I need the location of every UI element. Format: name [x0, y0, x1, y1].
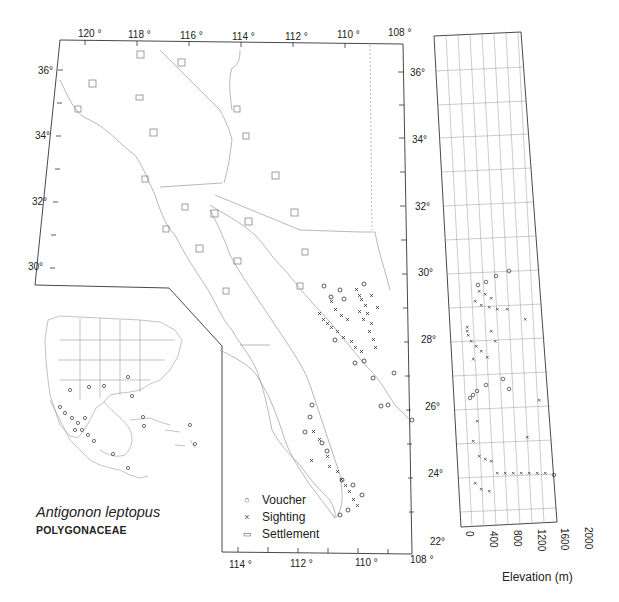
- map-lon-labels-bottom: 114 ° 112 ° 110 ° 108 °: [229, 554, 433, 570]
- voucher-circle-icon: ○: [240, 495, 254, 505]
- inset-gulf-coast: [100, 402, 132, 456]
- lat-label: 22°: [430, 536, 445, 547]
- lat-label: 36°: [38, 65, 53, 76]
- lat-label: 26°: [425, 401, 440, 412]
- map-lat-labels-left: 36° 34° 32° 30°: [28, 65, 53, 272]
- lat-label: 32°: [32, 196, 47, 207]
- lon-label: 110 °: [355, 557, 378, 568]
- inset-usa-outline: [45, 316, 182, 438]
- legend-label: Settlement: [262, 527, 319, 541]
- lon-label: 120 °: [78, 28, 101, 39]
- elevation-tick: 400: [488, 531, 499, 548]
- inset-caribbean-islands: [130, 418, 195, 448]
- lat-label: 32°: [415, 201, 430, 212]
- legend: ○ Voucher × Sighting ▭ Settlement: [240, 491, 319, 542]
- species-name: Antigonon leptopus: [36, 504, 160, 520]
- inset-occurrence-markers: [58, 375, 196, 469]
- lon-label: 114 °: [229, 559, 252, 570]
- lon-label: 108 °: [410, 554, 433, 565]
- map-left-ticks: [50, 70, 63, 268]
- sighting-markers-map: [310, 288, 379, 507]
- lat-label: 36°: [410, 67, 425, 78]
- legend-label: Voucher: [262, 493, 306, 507]
- sighting-cross-icon: ×: [240, 512, 254, 522]
- lat-label: 30°: [418, 267, 433, 278]
- elevation-tick: 2000: [583, 527, 594, 550]
- elevation-tick: 0: [464, 531, 475, 537]
- lat-label: 24°: [428, 468, 443, 479]
- elevation-frame: [434, 32, 557, 527]
- lon-label: 108 °: [388, 27, 411, 38]
- legend-item-voucher: ○ Voucher: [240, 491, 319, 508]
- elevation-tick: 800: [512, 530, 523, 547]
- coastlines-borders: [60, 45, 410, 518]
- voucher-markers-map: [303, 282, 414, 517]
- settlement-square-icon: ▭: [240, 529, 254, 539]
- elevation-x-ticks: 0 400 800 1200 1600 2000: [464, 527, 594, 552]
- elevation-tick: 1200: [536, 529, 547, 552]
- inset-map: [45, 316, 195, 478]
- lon-label: 112 °: [285, 31, 308, 42]
- elevation-sighting-points: [466, 290, 547, 493]
- elevation-axis-label: Elevation (m): [502, 570, 573, 584]
- legend-item-sighting: × Sighting: [240, 508, 319, 525]
- legend-item-settlement: ▭ Settlement: [240, 525, 319, 542]
- lon-label: 118 °: [128, 29, 151, 40]
- lat-label: 30°: [28, 261, 43, 272]
- lat-label: 28°: [421, 334, 436, 345]
- lon-label: 112 °: [290, 558, 313, 569]
- lon-label: 116 °: [180, 30, 203, 41]
- legend-label: Sighting: [262, 510, 305, 524]
- lon-label: 114 °: [232, 31, 255, 42]
- family-name: POLYGONACEAE: [36, 524, 127, 536]
- lat-label: 34°: [412, 134, 427, 145]
- lat-label: 34°: [35, 130, 50, 141]
- elevation-panel: [434, 32, 557, 527]
- lon-label: 110 °: [337, 29, 360, 40]
- elevation-tick: 1600: [559, 528, 570, 551]
- elevation-gridlines: [435, 33, 557, 528]
- figure: 120 ° 118 ° 116 ° 114 ° 112 ° 110 ° 108 …: [0, 0, 619, 602]
- map-lon-labels-top: 120 ° 118 ° 116 ° 114 ° 112 ° 110 ° 108 …: [78, 27, 411, 42]
